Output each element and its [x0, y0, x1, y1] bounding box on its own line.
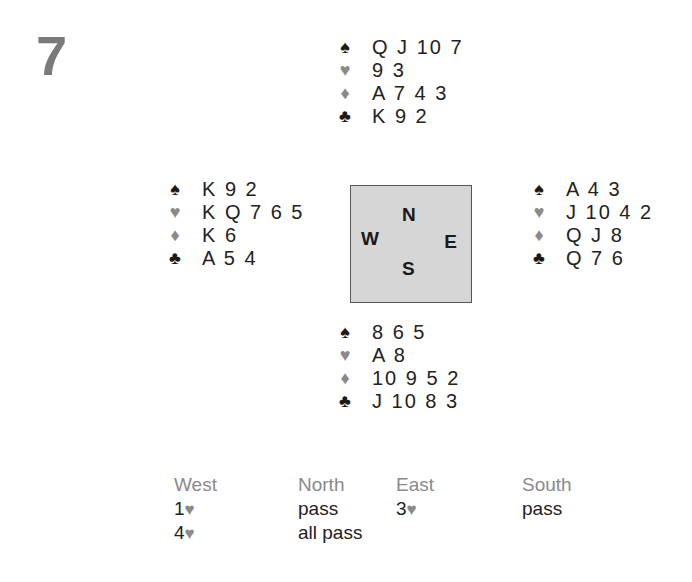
- auction-bid: [396, 521, 522, 545]
- heart-icon: ♥: [185, 524, 195, 543]
- diamond-icon: ♦: [528, 224, 550, 247]
- west-spades-row: ♠ K 9 2: [164, 178, 305, 201]
- hand-north: ♠ Q J 10 7 ♥ 9 3 ♦ A 7 4 3 ♣ K 9 2: [334, 36, 464, 128]
- east-clubs: Q 7 6: [566, 247, 625, 270]
- club-icon: ♣: [334, 390, 356, 413]
- auction-bid: [522, 521, 602, 545]
- south-spades-row: ♠ 8 6 5: [334, 321, 460, 344]
- auction-bid: 3♥: [396, 497, 522, 521]
- south-diamonds: 10 9 5 2: [372, 367, 460, 390]
- diamond-icon: ♦: [334, 367, 356, 390]
- east-clubs-row: ♣ Q 7 6: [528, 247, 653, 270]
- north-hearts: 9 3: [372, 59, 406, 82]
- west-hearts-row: ♥ K Q 7 6 5: [164, 201, 305, 224]
- heart-icon: ♥: [528, 201, 550, 224]
- club-icon: ♣: [528, 247, 550, 270]
- spade-icon: ♠: [334, 321, 356, 344]
- bid-text: pass: [522, 498, 562, 519]
- west-clubs: A 5 4: [202, 247, 258, 270]
- west-diamonds: K 6: [202, 224, 238, 247]
- compass-east-label: E: [444, 231, 457, 253]
- east-diamonds-row: ♦ Q J 8: [528, 224, 653, 247]
- west-clubs-row: ♣ A 5 4: [164, 247, 305, 270]
- board-number: 7: [36, 28, 67, 84]
- bid-level: 3: [396, 498, 407, 519]
- west-diamonds-row: ♦ K 6: [164, 224, 305, 247]
- compass-box: N W E S: [350, 185, 472, 303]
- north-hearts-row: ♥ 9 3: [334, 59, 464, 82]
- south-hearts-row: ♥ A 8: [334, 344, 460, 367]
- spade-icon: ♠: [334, 36, 356, 59]
- auction-bid: 4♥: [174, 521, 298, 545]
- bid-text: all pass: [298, 522, 362, 543]
- compass-west-label: W: [361, 228, 379, 250]
- auction-header-west: West: [174, 473, 298, 497]
- hand-east: ♠ A 4 3 ♥ J 10 4 2 ♦ Q J 8 ♣ Q 7 6: [528, 178, 653, 270]
- south-diamonds-row: ♦ 10 9 5 2: [334, 367, 460, 390]
- north-diamonds-row: ♦ A 7 4 3: [334, 82, 464, 105]
- hand-west: ♠ K 9 2 ♥ K Q 7 6 5 ♦ K 6 ♣ A 5 4: [164, 178, 305, 270]
- auction-header-south: South: [522, 473, 602, 497]
- diamond-icon: ♦: [334, 82, 356, 105]
- compass-north-label: N: [402, 204, 416, 226]
- west-spades: K 9 2: [202, 178, 259, 201]
- hand-south: ♠ 8 6 5 ♥ A 8 ♦ 10 9 5 2 ♣ J 10 8 3: [334, 321, 460, 413]
- north-spades-row: ♠ Q J 10 7: [334, 36, 464, 59]
- auction-table: West North East South 1♥ pass 3♥ pass 4♥…: [174, 473, 602, 545]
- south-spades: 8 6 5: [372, 321, 426, 344]
- club-icon: ♣: [334, 105, 356, 128]
- south-hearts: A 8: [372, 344, 407, 367]
- bid-level: 1: [174, 498, 185, 519]
- east-hearts: J 10 4 2: [566, 201, 653, 224]
- auction-header-east: East: [396, 473, 522, 497]
- auction-bid: pass: [522, 497, 602, 521]
- south-clubs: J 10 8 3: [372, 390, 459, 413]
- north-clubs-row: ♣ K 9 2: [334, 105, 464, 128]
- auction-header-north: North: [298, 473, 396, 497]
- north-spades: Q J 10 7: [372, 36, 464, 59]
- east-diamonds: Q J 8: [566, 224, 624, 247]
- diamond-icon: ♦: [164, 224, 186, 247]
- heart-icon: ♥: [334, 344, 356, 367]
- east-hearts-row: ♥ J 10 4 2: [528, 201, 653, 224]
- north-clubs: K 9 2: [372, 105, 429, 128]
- heart-icon: ♥: [334, 59, 356, 82]
- bid-level: 4: [174, 522, 185, 543]
- heart-icon: ♥: [185, 500, 195, 519]
- east-spades-row: ♠ A 4 3: [528, 178, 653, 201]
- club-icon: ♣: [164, 247, 186, 270]
- west-hearts: K Q 7 6 5: [202, 201, 305, 224]
- compass-south-label: S: [402, 258, 415, 280]
- auction-bid: all pass: [298, 521, 396, 545]
- heart-icon: ♥: [407, 500, 417, 519]
- spade-icon: ♠: [528, 178, 550, 201]
- bid-text: pass: [298, 498, 338, 519]
- auction-bid: pass: [298, 497, 396, 521]
- north-diamonds: A 7 4 3: [372, 82, 448, 105]
- east-spades: A 4 3: [566, 178, 622, 201]
- spade-icon: ♠: [164, 178, 186, 201]
- heart-icon: ♥: [164, 201, 186, 224]
- south-clubs-row: ♣ J 10 8 3: [334, 390, 460, 413]
- auction-bid: 1♥: [174, 497, 298, 521]
